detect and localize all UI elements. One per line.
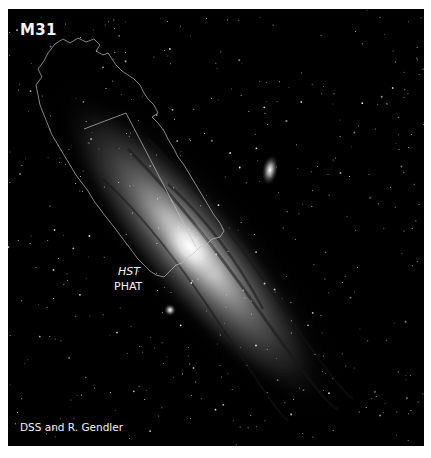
star [404, 320, 407, 323]
star [419, 204, 420, 205]
star [190, 282, 192, 284]
star [181, 151, 182, 152]
star [361, 102, 363, 104]
star [321, 93, 322, 94]
star [412, 228, 413, 229]
star [264, 420, 265, 421]
star [257, 160, 258, 161]
star [103, 314, 104, 315]
star [133, 185, 134, 186]
star [238, 20, 239, 21]
star [303, 389, 305, 391]
star [354, 292, 355, 293]
star [63, 284, 64, 285]
star [355, 31, 356, 32]
star [115, 410, 116, 411]
star [98, 149, 99, 150]
star [171, 292, 172, 293]
star [146, 390, 147, 391]
star [142, 95, 143, 96]
star [398, 134, 399, 135]
star [149, 430, 151, 432]
star [392, 87, 394, 89]
star [322, 371, 323, 372]
star [59, 158, 60, 159]
star [312, 312, 314, 314]
star [142, 352, 143, 353]
star [302, 204, 303, 205]
star [18, 240, 19, 241]
star [139, 386, 140, 387]
star [41, 17, 42, 18]
star [218, 204, 220, 206]
star [164, 287, 165, 288]
star [59, 162, 60, 163]
star [408, 21, 409, 22]
star [215, 254, 217, 256]
star [359, 412, 360, 413]
star [172, 109, 174, 111]
star [355, 230, 356, 231]
star [210, 139, 213, 142]
star [405, 375, 406, 376]
star [248, 427, 249, 428]
star [180, 155, 181, 156]
star [333, 430, 334, 431]
star [270, 175, 271, 176]
star [371, 398, 372, 399]
star [254, 234, 255, 235]
star [411, 410, 412, 411]
star [201, 398, 202, 399]
star [163, 363, 164, 364]
star [102, 66, 104, 68]
star [315, 354, 316, 355]
star [74, 418, 75, 419]
star [266, 82, 267, 83]
star [325, 252, 326, 253]
star [362, 43, 363, 44]
star [167, 21, 168, 22]
star [79, 191, 80, 192]
star [9, 152, 10, 153]
star [366, 407, 367, 408]
star [347, 216, 348, 217]
star [60, 417, 61, 418]
star [90, 138, 93, 141]
star [351, 146, 352, 147]
star [188, 347, 189, 348]
star [298, 213, 299, 214]
star [276, 167, 277, 168]
star [126, 133, 127, 134]
star [120, 308, 121, 309]
star [80, 37, 81, 38]
star [70, 399, 71, 400]
star [291, 333, 292, 334]
star [94, 388, 95, 389]
star [125, 52, 126, 53]
star [408, 147, 409, 148]
star [193, 109, 194, 110]
star [176, 140, 178, 142]
star [342, 353, 343, 354]
star [232, 389, 233, 390]
star [47, 240, 48, 241]
star [138, 120, 139, 121]
star [85, 377, 86, 378]
star [131, 99, 132, 100]
star [125, 21, 126, 22]
star [131, 153, 132, 154]
star [156, 243, 157, 244]
star [166, 357, 167, 358]
star [225, 307, 226, 308]
star [81, 395, 82, 396]
star [38, 304, 39, 305]
star [241, 95, 242, 96]
star [283, 228, 284, 229]
star [180, 26, 181, 27]
star [87, 142, 90, 145]
star [233, 420, 234, 421]
star [222, 228, 223, 229]
star [290, 413, 293, 416]
star [345, 365, 346, 366]
star [317, 166, 318, 167]
